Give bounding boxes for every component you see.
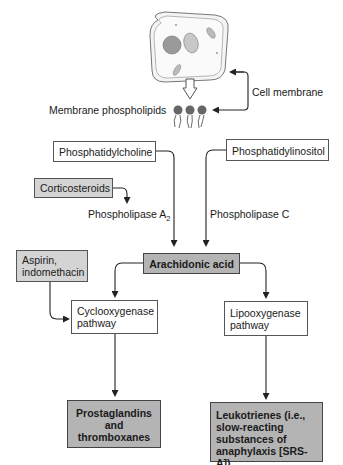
membrane-phospholipids-label: Membrane phospholipids (49, 104, 166, 116)
hollow-down-arrow-icon (183, 79, 197, 99)
lipooxygenase-pathway-box: Lipooxygenase pathway (224, 301, 308, 336)
cell-icon (150, 12, 228, 82)
leukotrienes-box: Leukotrienes (i.e., slow-reacting substa… (210, 402, 323, 462)
corticosteroids-box: Corticosteroids (34, 178, 113, 198)
cell-membrane-label: Cell membrane (252, 86, 323, 98)
phospholipase-c-label: Phospholipase C (210, 208, 289, 220)
phospholipid-molecules-icon (174, 106, 207, 129)
aspirin-indomethacin-box: Aspirin, indomethacin (16, 250, 88, 282)
phospholipase-a2-label: Phospholipase A2 (88, 208, 170, 223)
connector-lines (0, 0, 343, 465)
arachidonic-acid-box: Arachidonic acid (143, 253, 240, 274)
prostaglandins-thromboxanes-box: Prostaglandins and thromboxanes (67, 400, 161, 448)
cyclooxygenase-pathway-box: Cyclooxygenase pathway (71, 300, 158, 334)
phosphatidylinositol-box: Phosphatidylinositol (226, 139, 329, 161)
phosphatidylcholine-box: Phosphatidylcholine (53, 141, 156, 162)
arachidonic-acid-pathway-diagram: Cell membrane Membrane phospholipids Pho… (0, 0, 343, 465)
